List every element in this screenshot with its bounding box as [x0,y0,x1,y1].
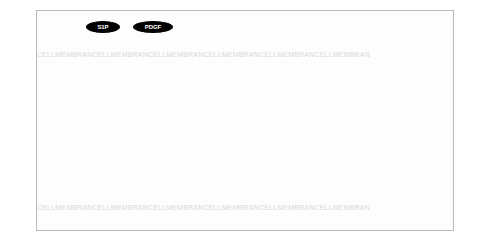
node-label: S1P [97,24,108,30]
node-label: PDGF [145,24,161,30]
edge-layer [37,11,453,230]
node-s1p-lig[interactable]: S1P [86,21,120,33]
node-pdgf[interactable]: PDGF [133,21,173,33]
watermark-row-top: CELLMEMBRANCELLMEMBRANCELLMEMBRANCELLMEM… [37,51,370,58]
watermark-row-bottom: CELLMEMBRANCELLMEMBRANCELLMEMBRANCELLMEM… [37,204,370,211]
pathway-canvas: CELLMEMBRANCELLMEMBRANCELLMEMBRANCELLMEM… [36,10,454,231]
pathway-diagram-screenshot: CELLMEMBRANCELLMEMBRANCELLMEMBRANCELLMEM… [0,0,488,244]
